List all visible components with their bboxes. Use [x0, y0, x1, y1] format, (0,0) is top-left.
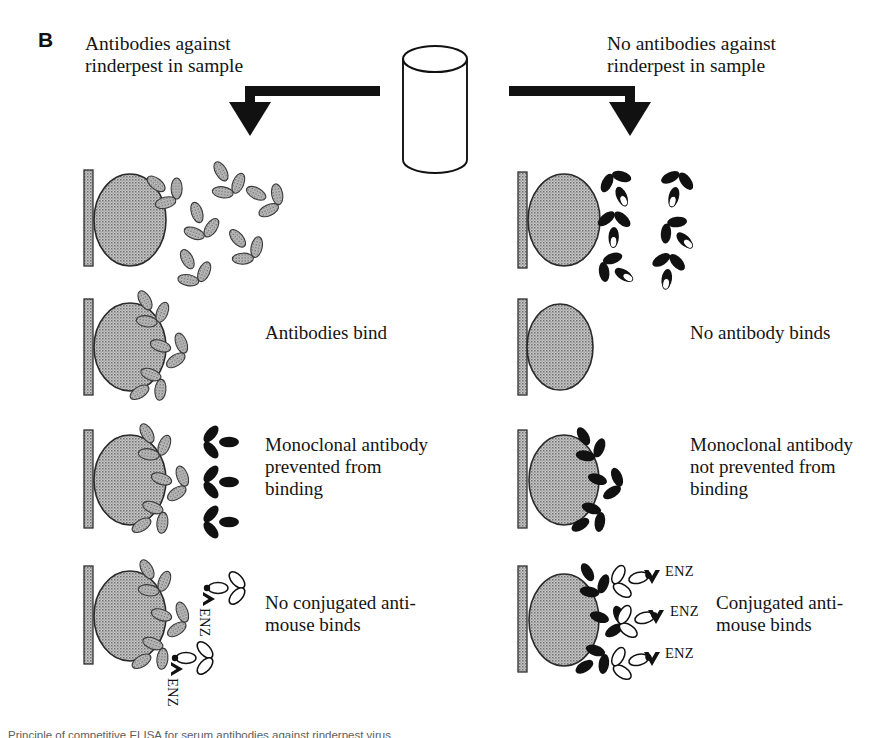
solid-phase-bar — [518, 430, 527, 528]
enzyme-label-left-1: ENZ — [196, 608, 213, 637]
step-3-right-caption: Monoclonal antibody not prevented from b… — [690, 434, 895, 500]
elisa-figure: B Antibodies against rinderpest in sampl… — [0, 0, 895, 738]
left-flow-arrow — [225, 82, 385, 140]
step-2-left-illustration — [72, 293, 252, 403]
step-4-right-illustration — [492, 558, 752, 718]
solid-phase-bar — [84, 566, 93, 664]
enzyme-label-left-2: ENZ — [164, 678, 181, 707]
solid-phase-bar — [518, 172, 527, 268]
antigen-coated-well — [528, 174, 600, 266]
figure-bottom-caption: Principle of competitive ELISA for serum… — [8, 729, 888, 738]
step-2-right-caption: No antibody binds — [690, 322, 895, 344]
panel-letter: B — [38, 28, 53, 52]
step-4-right-caption: Conjugated anti- mouse binds — [716, 592, 895, 636]
enzyme-conjugate — [605, 556, 656, 603]
step-4-left-illustration — [72, 558, 312, 733]
monoclonal-antibody — [201, 503, 239, 541]
solid-phase-bar — [84, 299, 93, 395]
step-2-left-caption: Antibodies bind — [265, 322, 485, 344]
sample-tube — [392, 40, 478, 190]
step-3-left-caption: Monoclonal antibody prevented from bindi… — [265, 434, 495, 500]
step-3-left-illustration — [72, 420, 292, 545]
solid-phase-bar — [84, 170, 93, 266]
enzyme-conjugate — [605, 638, 656, 685]
enzyme-conjugate — [203, 569, 248, 607]
right-flow-arrow — [505, 82, 665, 140]
monoclonal-antibody — [201, 463, 239, 501]
solid-phase-bar — [518, 566, 527, 672]
step-1-right-illustration — [492, 158, 742, 288]
left-column-heading: Antibodies against rinderpest in sample — [85, 33, 315, 76]
step-1-left-illustration — [72, 158, 322, 288]
tube-rim — [403, 46, 467, 72]
solid-phase-bar — [518, 299, 527, 395]
enzyme-label-right-1: ENZ — [665, 563, 694, 580]
step-4-left-caption: No conjugated anti- mouse binds — [265, 592, 470, 636]
right-column-heading: No antibodies against rinderpest in samp… — [607, 33, 857, 76]
enzyme-label-right-2: ENZ — [670, 603, 699, 620]
step-3-right-illustration — [492, 420, 712, 545]
enzyme-label-right-3: ENZ — [665, 645, 694, 662]
solid-phase-bar — [84, 430, 93, 528]
enzyme-conjugate — [171, 639, 216, 677]
antigen-coated-well — [527, 304, 593, 390]
step-2-right-illustration — [492, 293, 672, 403]
monoclonal-antibody — [201, 423, 239, 461]
